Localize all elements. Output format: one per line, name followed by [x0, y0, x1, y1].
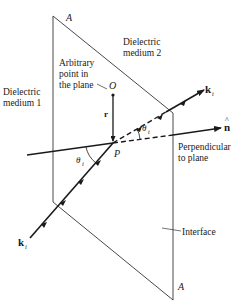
vector-r-label: r: [104, 109, 108, 119]
point-P-label: P: [113, 148, 120, 159]
theta-incident-subscript: i: [82, 160, 84, 167]
normal-hat-label: ^: [225, 116, 229, 125]
arbitrary-point-label-line2: point in: [59, 69, 89, 79]
k-incident-subscript: i: [25, 243, 27, 250]
k-incident-label: k: [18, 236, 25, 248]
normal-line-solid: [27, 143, 113, 155]
medium-1-label-line1: Dielectric: [3, 87, 40, 97]
arbitrary-point-leader: [97, 84, 107, 89]
theta-incident-arc: [86, 147, 96, 163]
medium-1-label-line2: medium 1: [3, 98, 42, 108]
transmitted-ray-dashed: [113, 112, 166, 143]
arbitrary-point-label-line3: the plane: [59, 80, 94, 90]
corner-label-bottom: A: [177, 281, 185, 292]
medium-2-label-line1: Dielectric: [123, 37, 160, 47]
arbitrary-point-label-line1: Arbitrary: [59, 58, 95, 68]
k-transmitted-subscript: t: [212, 90, 214, 97]
point-O-label: O: [109, 80, 116, 91]
incident-ray-arrowheads: [41, 160, 101, 228]
normal-line-dashed: [113, 135, 173, 143]
k-transmitted-label: k: [205, 83, 212, 95]
perpendicular-label-line2: to plane: [178, 153, 208, 163]
theta-transmitted-label: θ: [142, 123, 147, 133]
medium-2-label-line2: medium 2: [123, 48, 162, 58]
theta-transmitted-subscript: t: [148, 128, 150, 135]
normal-arrow: [173, 128, 221, 135]
diagram-canvas: A A Dielectric medium 1 Dielectric mediu…: [0, 0, 242, 306]
perpendicular-label-line1: Perpendicular: [178, 142, 232, 152]
interface-label: Interface: [182, 227, 216, 237]
corner-label-top: A: [65, 12, 73, 23]
theta-incident-label: θ: [76, 155, 81, 165]
interface-leader: [162, 228, 181, 231]
